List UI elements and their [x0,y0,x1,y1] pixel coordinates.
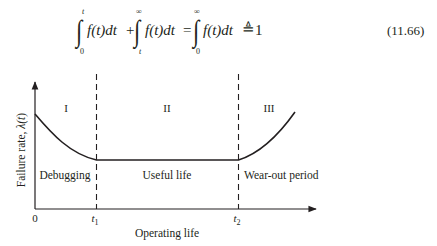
integral-sign-1: ∫ [76,16,82,46]
y-axis-label: Failure rate, λ(t) [15,113,28,187]
phase-label-wear-out-period: Wear-out period [244,169,319,182]
equation-number: (11.66) [387,24,424,37]
y-axis-label-text: Failure rate, [15,129,28,187]
integral-1-lower-limit: 0 [80,48,84,56]
x-tick-t1: t1 [91,212,98,227]
x-axis-label: Operating life [135,227,199,240]
x-tick-zero: 0 [32,212,38,224]
integral-sign-3: ∫ [193,16,199,46]
integrand-3: f(t)dt [203,23,233,38]
integral-sign-2: ∫ [134,16,140,46]
integral-3-lower-limit: 0 [196,48,200,56]
defined-as-sign: ≜ [242,22,255,37]
integral-2-lower-limit: t [139,48,141,56]
region-label-ii: II [163,102,171,114]
y-axis-label-close: ) [15,113,28,117]
region-label-iii: III [264,102,275,114]
region-label-i: I [64,102,68,114]
phase-label-useful-life: Useful life [143,169,192,181]
equation-11-66: t ∫ 0 f(t)dt + ∞ ∫ t f(t)dt = ∞ ∫ 0 f(t)… [0,0,437,62]
equals-sign: = [183,23,191,38]
phase-label-debugging: Debugging [39,169,90,182]
failure-rate-curve [35,112,295,160]
x-tick-t2-subscript: 2 [237,218,241,227]
equation-rhs: 1 [255,23,263,38]
x-tick-t1-subscript: 1 [95,218,99,227]
bathtub-curve-figure: I II III Debugging Useful life Wear-out … [0,62,437,246]
x-tick-t2: t2 [233,212,240,227]
integrand-2: f(t)dt [145,23,175,38]
integrand-1: f(t)dt [87,23,117,38]
integral-1-upper-limit: t [82,8,84,16]
